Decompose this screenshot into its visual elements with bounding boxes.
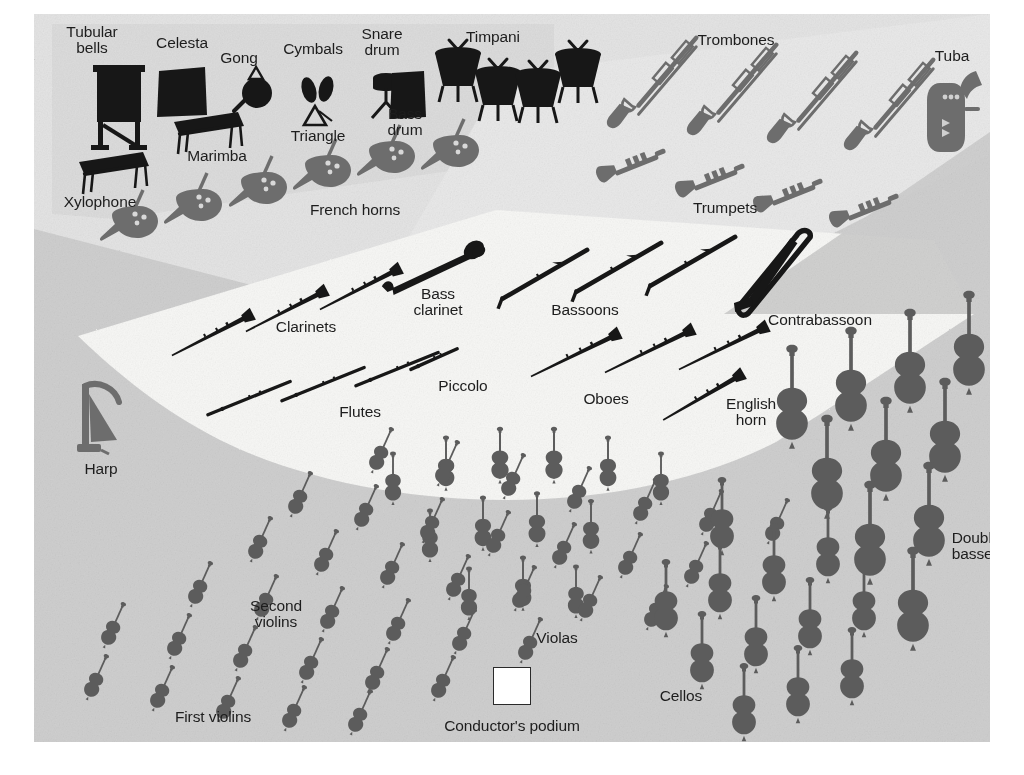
cello-icon bbox=[649, 559, 683, 645]
seating-plate: Tubular bellsCelestaGongCymbalsSnare dru… bbox=[34, 14, 990, 742]
bass-drum-icon bbox=[387, 69, 429, 121]
viola-icon bbox=[596, 436, 621, 497]
tubular-bells-icon bbox=[87, 61, 151, 151]
double-bass-icon bbox=[847, 481, 892, 595]
double-bass-icon bbox=[828, 327, 873, 441]
triangle-icon bbox=[301, 103, 335, 131]
cymbals-icon bbox=[297, 73, 339, 107]
double-bass-icon bbox=[769, 345, 814, 459]
viola-icon bbox=[541, 427, 566, 490]
french-horn-icon bbox=[163, 171, 225, 227]
gong-icon bbox=[232, 65, 278, 113]
cello-icon bbox=[835, 627, 869, 713]
harp-icon bbox=[75, 380, 129, 458]
double-bass-icon bbox=[890, 547, 935, 661]
tuba-icon bbox=[924, 67, 986, 153]
marimba-icon bbox=[170, 108, 248, 156]
cello-icon bbox=[727, 663, 761, 742]
french-horn-icon bbox=[228, 154, 290, 210]
double-bass-icon bbox=[946, 291, 990, 405]
double-bass-icon bbox=[887, 309, 932, 423]
french-horn-icon bbox=[356, 123, 418, 179]
french-horn-icon bbox=[292, 137, 354, 193]
cello-icon bbox=[705, 477, 739, 563]
french-horn-icon bbox=[420, 117, 482, 173]
cello-icon bbox=[781, 645, 815, 731]
viola-icon bbox=[525, 491, 550, 552]
conductors-podium[interactable] bbox=[493, 667, 531, 705]
french-horn-icon bbox=[99, 188, 161, 244]
orchestra-diagram: Tubular bellsCelestaGongCymbalsSnare dru… bbox=[0, 0, 1024, 775]
cello-icon bbox=[757, 523, 791, 609]
